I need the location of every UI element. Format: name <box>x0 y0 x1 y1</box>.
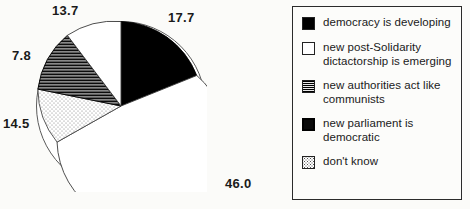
legend-item-label: new post-Solidarity dictactorship is eme… <box>323 41 453 68</box>
legend-item-democracy-developing: democracy is developing <box>302 16 453 30</box>
slice-value-label-7-8: 7.8 <box>12 48 31 63</box>
legend-item-authorities-like-communists: new authorities act like communists <box>302 79 453 106</box>
legend: democracy is developing new post-Solidar… <box>292 6 462 200</box>
chart-area: 17.7 46.0 14.5 7.8 13.7 <box>0 0 288 209</box>
legend-item-label: democracy is developing <box>323 16 451 30</box>
legend-item-label: new authorities act like communists <box>323 79 453 106</box>
legend-item-label: new parliament is democratic <box>323 117 453 144</box>
slice-value-label-13-7: 13.7 <box>52 3 79 18</box>
white-outline-swatch-icon <box>302 42 315 55</box>
slice-value-label-46-0: 46.0 <box>225 176 252 191</box>
slice-value-label-14-5: 14.5 <box>3 116 30 131</box>
dark-filled-swatch-icon <box>302 118 315 131</box>
pie-svg <box>35 20 207 192</box>
legend-item-new-parliament-democratic: new parliament is democratic <box>302 117 453 144</box>
legend-item-dont-know: don't know <box>302 155 453 169</box>
legend-item-label: don't know <box>323 155 378 169</box>
legend-item-post-solidarity-dictatorship: new post-Solidarity dictactorship is eme… <box>302 41 453 68</box>
dark-speckle-swatch-icon <box>302 80 315 93</box>
solid-black-swatch-icon <box>302 17 315 30</box>
slice-value-label-17-7: 17.7 <box>168 10 195 25</box>
pie-chart-figure: 17.7 46.0 14.5 7.8 13.7 democracy is dev… <box>0 0 470 209</box>
light-dots-swatch-icon <box>302 156 315 169</box>
pie-graphic <box>35 20 207 192</box>
